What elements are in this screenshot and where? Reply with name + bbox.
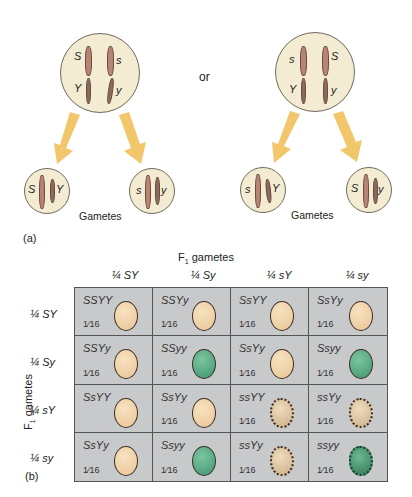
fraction-label: 1⁄16 — [161, 368, 178, 378]
genotype-label: SsYY — [239, 294, 267, 306]
punnett-cell: SsYY 1⁄16 — [231, 288, 309, 336]
punnett-cell: SSYY 1⁄16 — [75, 288, 153, 336]
punnett-cell: ssYy 1⁄16 — [309, 385, 387, 433]
gametes-label: Gametes — [291, 209, 334, 221]
punnett-cell: SsYy 1⁄16 — [75, 433, 153, 481]
genotype-label: SSYY — [83, 294, 112, 306]
allele-label: Y — [272, 182, 279, 194]
genotype-label: Ssyy — [161, 439, 185, 451]
panel-b-label: (b) — [25, 470, 38, 482]
chromosome-y — [155, 177, 160, 205]
f1-gametes-side-title: F1 gametes — [22, 374, 36, 430]
arrow-icon — [333, 111, 362, 162]
fraction-label: 1⁄16 — [317, 368, 334, 378]
fraction-label: 1⁄16 — [83, 319, 100, 329]
pea-round-yellow-icon — [114, 398, 138, 428]
pea-round-green-icon — [192, 349, 216, 379]
genotype-label: SsYy — [239, 342, 265, 354]
punnett-cell: ssYy 1⁄16 — [231, 433, 309, 481]
column-header: ¼ Sy — [164, 269, 242, 281]
pea-round-yellow-icon — [349, 301, 373, 331]
allele-label: Y — [56, 183, 63, 195]
row-header: ¼ Sy — [30, 356, 70, 368]
column-header: ¼ sY — [240, 269, 318, 281]
fraction-label: 1⁄16 — [239, 416, 256, 426]
genotype-label: ssYy — [317, 391, 341, 403]
punnett-cell: Ssyy 1⁄16 — [153, 433, 231, 481]
column-header: ¼ SY — [86, 269, 164, 281]
fraction-label: 1⁄16 — [161, 416, 178, 426]
genotype-label: SsYy — [83, 439, 109, 451]
genotype-label: SsYY — [83, 391, 111, 403]
row-header: ¼ sY — [30, 404, 70, 416]
pea-round-green-icon — [192, 446, 216, 476]
gamete-cell: S Y — [24, 168, 70, 214]
punnett-cell: ssyy 1⁄16 — [309, 433, 387, 481]
chromosome-S — [363, 174, 369, 208]
gamete-cell: s Y — [240, 167, 286, 213]
arrow-icon — [272, 111, 300, 163]
row-header: ¼ SY — [30, 308, 70, 320]
punnett-cell: ssYY 1⁄16 — [231, 385, 309, 433]
fraction-label: 1⁄16 — [83, 465, 100, 475]
genotype-label: SSyy — [161, 342, 187, 354]
allele-label: s — [245, 183, 251, 195]
genotype-label: ssyy — [317, 439, 339, 451]
punnett-cell: SSYy 1⁄16 — [153, 288, 231, 336]
gamete-cell: S y — [346, 167, 392, 213]
genotype-label: SSYy — [161, 294, 189, 306]
pea-wrinkled-yellow-icon — [270, 446, 294, 476]
allele-label: s — [136, 184, 142, 196]
gamete-cell: s y — [129, 168, 175, 214]
pea-wrinkled-yellow-icon — [270, 398, 294, 428]
pea-round-green-icon — [349, 349, 373, 379]
punnett-cell: Ssyy 1⁄16 — [309, 336, 387, 384]
punnett-cell: SsYy 1⁄16 — [309, 288, 387, 336]
fraction-label: 1⁄16 — [317, 319, 334, 329]
fraction-label: 1⁄16 — [239, 319, 256, 329]
genotype-label: SsYy — [161, 391, 187, 403]
allele-label: y — [161, 184, 167, 196]
punnett-cell: SSYy 1⁄16 — [75, 336, 153, 384]
pea-wrinkled-green-icon — [349, 446, 373, 476]
pea-round-yellow-icon — [270, 301, 294, 331]
fraction-label: 1⁄16 — [161, 319, 178, 329]
panel-a-label: (a) — [23, 232, 36, 244]
column-header: ¼ sy — [318, 269, 396, 281]
chromosome-S — [39, 175, 45, 209]
pea-round-yellow-icon — [114, 446, 138, 476]
allele-label: S — [28, 183, 35, 195]
fraction-label: 1⁄16 — [161, 465, 178, 475]
fraction-label: 1⁄16 — [83, 368, 100, 378]
pea-round-yellow-icon — [114, 301, 138, 331]
allele-label: y — [378, 183, 384, 195]
punnett-cell: SsYy 1⁄16 — [153, 385, 231, 433]
pea-round-yellow-icon — [192, 301, 216, 331]
punnett-cell: SSyy 1⁄16 — [153, 336, 231, 384]
genotype-label: Ssyy — [317, 342, 341, 354]
pea-round-yellow-icon — [114, 349, 138, 379]
punnett-square: SSYY 1⁄16 SSYy 1⁄16 SsYY 1⁄16 SsYy 1⁄16 … — [74, 287, 388, 482]
chromosome-s — [145, 175, 151, 209]
f1-gametes-top-title: F1 gametes — [0, 251, 412, 265]
arrows — [0, 0, 412, 170]
chromosome-s — [255, 174, 261, 208]
allele-label: S — [351, 182, 358, 194]
arrow-icon — [54, 112, 80, 164]
genotype-label: ssYy — [239, 439, 263, 451]
fraction-label: 1⁄16 — [317, 465, 334, 475]
genotype-label: SsYy — [317, 294, 343, 306]
fraction-label: 1⁄16 — [317, 416, 334, 426]
pea-wrinkled-yellow-icon — [349, 398, 373, 428]
punnett-cell: SsYY — [75, 385, 153, 433]
genotype-label: SSYy — [83, 342, 111, 354]
genotype-label: ssYY — [239, 391, 265, 403]
chromosome-Y — [50, 179, 55, 203]
gametes-label: Gametes — [79, 210, 122, 222]
fraction-label: 1⁄16 — [239, 368, 256, 378]
fraction-label: 1⁄16 — [239, 465, 256, 475]
row-header: ¼ sy — [30, 452, 70, 464]
arrow-icon — [119, 112, 146, 164]
pea-round-yellow-icon — [192, 398, 216, 428]
pea-round-yellow-icon — [270, 349, 294, 379]
